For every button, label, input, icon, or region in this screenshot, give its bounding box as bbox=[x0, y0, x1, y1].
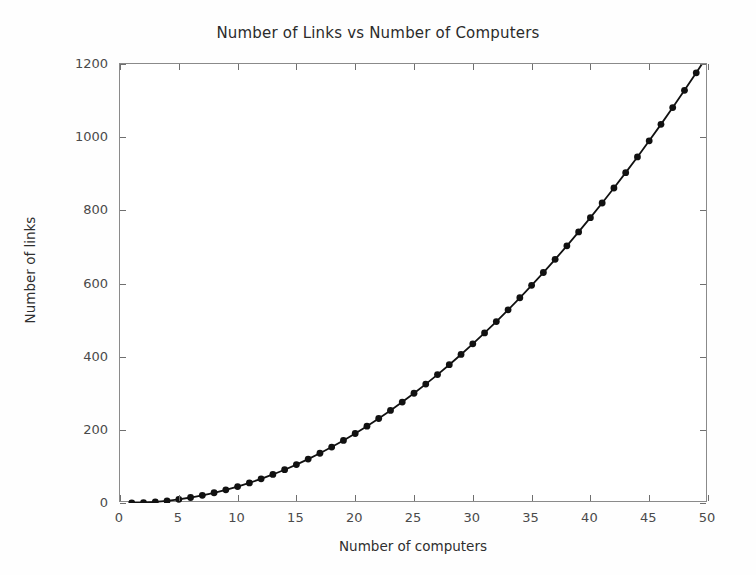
x-tick bbox=[532, 64, 533, 70]
y-tick bbox=[700, 64, 706, 65]
x-tick bbox=[179, 64, 180, 70]
data-point bbox=[293, 461, 300, 468]
data-point bbox=[693, 69, 700, 76]
data-point bbox=[681, 87, 688, 94]
y-tick bbox=[700, 210, 706, 211]
x-tick bbox=[473, 495, 474, 501]
data-point bbox=[364, 423, 371, 430]
data-point bbox=[646, 137, 653, 144]
data-point bbox=[352, 430, 359, 437]
chart-title: Number of Links vs Number of Computers bbox=[0, 24, 756, 42]
data-point bbox=[446, 361, 453, 368]
x-tick-label: 0 bbox=[115, 510, 123, 525]
data-point bbox=[540, 269, 547, 276]
x-tick-label: 20 bbox=[346, 510, 363, 525]
data-point bbox=[234, 483, 241, 490]
y-tick bbox=[120, 64, 126, 65]
x-tick bbox=[238, 495, 239, 501]
data-point bbox=[140, 499, 147, 503]
x-tick-label: 40 bbox=[581, 510, 598, 525]
y-tick-label: 1200 bbox=[40, 56, 108, 71]
data-point bbox=[622, 169, 629, 176]
data-point bbox=[340, 437, 347, 444]
x-tick-label: 35 bbox=[522, 510, 539, 525]
x-tick bbox=[590, 64, 591, 70]
data-point bbox=[658, 121, 665, 128]
data-point bbox=[269, 471, 276, 478]
x-axis-title: Number of computers bbox=[119, 538, 707, 554]
x-tick bbox=[355, 495, 356, 501]
y-axis-title: Number of links bbox=[22, 170, 38, 370]
x-tick-label: 5 bbox=[174, 510, 182, 525]
y-tick bbox=[120, 210, 126, 211]
y-tick bbox=[120, 284, 126, 285]
data-point bbox=[458, 351, 465, 358]
x-tick-label: 10 bbox=[228, 510, 245, 525]
data-point bbox=[469, 340, 476, 347]
y-tick-label: 1000 bbox=[40, 129, 108, 144]
plot-area bbox=[119, 63, 707, 502]
data-point bbox=[152, 499, 159, 504]
y-tick bbox=[700, 357, 706, 358]
y-tick-label: 0 bbox=[40, 495, 108, 510]
data-point bbox=[505, 306, 512, 313]
data-point bbox=[199, 492, 206, 499]
data-point bbox=[575, 229, 582, 236]
y-tick-label: 800 bbox=[40, 202, 108, 217]
x-tick bbox=[708, 64, 709, 70]
x-tick bbox=[238, 64, 239, 70]
data-point bbox=[481, 329, 488, 336]
data-point bbox=[587, 214, 594, 221]
y-tick bbox=[700, 137, 706, 138]
data-point bbox=[317, 450, 324, 457]
x-tick bbox=[120, 495, 121, 501]
data-point bbox=[493, 318, 500, 325]
y-tick bbox=[120, 503, 126, 504]
data-point bbox=[222, 486, 229, 493]
y-tick-label: 600 bbox=[40, 275, 108, 290]
chart-figure: Number of Links vs Number of Computers 0… bbox=[0, 0, 756, 575]
data-point bbox=[328, 444, 335, 451]
x-tick-label: 50 bbox=[699, 510, 716, 525]
x-tick bbox=[414, 64, 415, 70]
data-point bbox=[516, 294, 523, 301]
data-point bbox=[305, 456, 312, 463]
x-tick bbox=[708, 495, 709, 501]
data-point bbox=[422, 381, 429, 388]
data-point bbox=[375, 415, 382, 422]
y-tick bbox=[700, 430, 706, 431]
data-point bbox=[528, 282, 535, 289]
data-point bbox=[258, 475, 265, 482]
y-tick bbox=[120, 430, 126, 431]
x-tick-label: 15 bbox=[287, 510, 304, 525]
data-point bbox=[563, 242, 570, 249]
data-point bbox=[634, 154, 641, 161]
y-tick bbox=[700, 503, 706, 504]
x-tick bbox=[590, 495, 591, 501]
x-tick bbox=[414, 495, 415, 501]
series-markers bbox=[128, 64, 708, 503]
data-point bbox=[669, 104, 676, 111]
data-point bbox=[611, 185, 618, 192]
x-tick-label: 30 bbox=[464, 510, 481, 525]
x-tick bbox=[355, 64, 356, 70]
x-tick bbox=[473, 64, 474, 70]
data-point bbox=[164, 497, 171, 503]
data-point bbox=[599, 200, 606, 207]
x-tick bbox=[296, 495, 297, 501]
x-tick bbox=[532, 495, 533, 501]
x-tick bbox=[649, 64, 650, 70]
series-polyline bbox=[132, 64, 708, 503]
data-point bbox=[411, 390, 418, 397]
x-tick bbox=[649, 495, 650, 501]
data-point bbox=[281, 466, 288, 473]
data-series-line-links bbox=[120, 64, 708, 503]
data-point bbox=[434, 371, 441, 378]
x-tick-label: 45 bbox=[640, 510, 657, 525]
y-tick-label: 200 bbox=[40, 421, 108, 436]
y-tick bbox=[700, 284, 706, 285]
data-point bbox=[187, 494, 194, 501]
data-point bbox=[552, 256, 559, 263]
data-point bbox=[246, 479, 253, 486]
x-tick-label: 25 bbox=[405, 510, 422, 525]
